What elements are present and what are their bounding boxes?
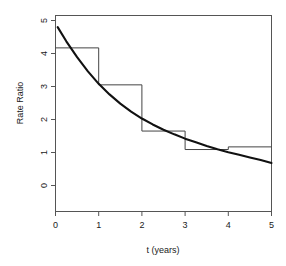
y-axis-title: Rate Ratio bbox=[15, 82, 25, 125]
x-tick-label-0: 0 bbox=[53, 220, 58, 230]
y-tick-label-4: 4 bbox=[39, 51, 49, 56]
y-tick-label-5: 5 bbox=[39, 18, 49, 23]
x-axis-title: t (years) bbox=[146, 245, 179, 255]
y-tick-label-1: 1 bbox=[39, 150, 49, 155]
x-tick-label-5: 5 bbox=[269, 220, 274, 230]
y-tick-label-0: 0 bbox=[39, 183, 49, 188]
rate-ratio-plot-svg: 5 4 3 2 1 0 Rate Ratio 0 1 2 3 4 5 bbox=[0, 0, 286, 266]
x-tick-label-3: 3 bbox=[183, 220, 188, 230]
chart-figure: 5 4 3 2 1 0 Rate Ratio 0 1 2 3 4 5 bbox=[0, 0, 286, 266]
y-tick-label-3: 3 bbox=[39, 84, 49, 89]
x-tick-label-1: 1 bbox=[96, 220, 101, 230]
x-tick-label-4: 4 bbox=[226, 220, 231, 230]
x-tick-label-2: 2 bbox=[139, 220, 144, 230]
y-tick-label-2: 2 bbox=[39, 117, 49, 122]
